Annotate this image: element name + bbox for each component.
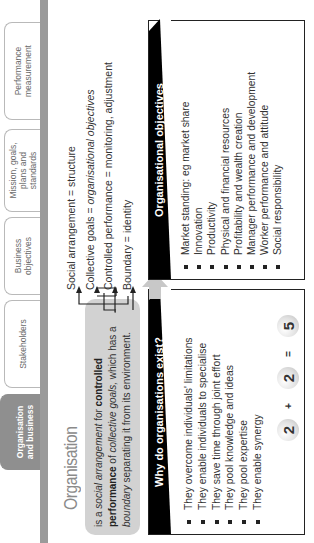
- statement-collective-goals: Collective goals = organisational object…: [81, 62, 100, 290]
- list-item: They enable synergy: [251, 337, 265, 524]
- tab-mission-goals[interactable]: Mission, goals, plans and standards: [4, 129, 40, 212]
- definition-text: collective goals,: [107, 382, 118, 453]
- list-item: Market standing: eg market share: [179, 72, 192, 269]
- diagram-canvas: Organisation and business Stakeholders B…: [0, 0, 314, 543]
- tab-label: Performance measurement: [13, 40, 33, 102]
- synergy-ball-a: 2: [277, 419, 299, 441]
- objectives-list: Market standing: eg market share Innovat…: [179, 72, 285, 269]
- definition-statements: Social arrangement = structure Collectiv…: [62, 62, 136, 290]
- statement-structure: Social arrangement = structure: [62, 62, 81, 290]
- list-item: They save time through joint effort: [210, 337, 224, 524]
- tab-label: Business objectives: [13, 231, 33, 281]
- box-title: Why do organisations exist?: [153, 290, 165, 534]
- equals-sign: =: [283, 351, 294, 357]
- list-item: They pool knowledge and ideas: [223, 337, 237, 524]
- statement-text: Collective goals =: [84, 204, 96, 290]
- tab-label: Organisation and business: [15, 402, 35, 462]
- list-item: Profitability and wealth creation: [232, 72, 245, 269]
- definition-text: separating it from its environment.: [121, 332, 132, 485]
- list-item: Worker performance and attitude: [258, 72, 271, 269]
- list-item: They overcome individuals' limitations: [182, 337, 196, 524]
- list-item: Physical and financial resources: [219, 72, 232, 269]
- tab-label: Mission, goals, plans and standards: [8, 133, 38, 209]
- list-item: They pool expertise: [237, 337, 251, 524]
- tab-business-objectives[interactable]: Business objectives: [4, 217, 40, 295]
- list-item: They enable individuals to specialise: [196, 337, 210, 524]
- tab-label: Stakeholders: [18, 319, 28, 369]
- synergy-ball-result: 5: [277, 315, 299, 337]
- why-organisations-exist-box: Why do organisations exist? They overcom…: [148, 289, 305, 535]
- statement-controlled-performance: Controlled performance = monitoring, adj…: [99, 62, 118, 290]
- definition-text: for: [93, 406, 104, 423]
- tab-stakeholders[interactable]: Stakeholders: [4, 300, 40, 388]
- organisational-objectives-box: Organisational objectives Market standin…: [148, 20, 305, 280]
- list-item: Innovation: [192, 72, 205, 269]
- list-item: Social responsibility: [271, 72, 284, 269]
- synergy-ball-b: 2: [277, 367, 299, 389]
- definition-text: boundary: [121, 485, 132, 527]
- statement-boundary: Boundary = identity: [118, 62, 137, 290]
- plus-sign: +: [283, 403, 294, 409]
- definition-text: which has a: [107, 326, 118, 382]
- list-item: Productivity: [205, 72, 218, 269]
- definition-text: of: [107, 453, 118, 467]
- reasons-list: They overcome individuals' limitations T…: [182, 337, 265, 524]
- statement-text: organisational objectives: [84, 89, 96, 204]
- box-title: Organisational objectives: [153, 21, 165, 279]
- definition-text: is a: [93, 509, 104, 527]
- list-item: Manager performance and development: [245, 72, 258, 269]
- page-title: Organisation: [60, 427, 82, 510]
- tab-bar-divider: [40, 0, 48, 543]
- box-header: Why do organisations exist?: [149, 290, 171, 534]
- definition-box: is a social arrangement for controlled p…: [85, 299, 140, 535]
- box-header: Organisational objectives: [149, 21, 171, 279]
- definition-text: social arrangement: [93, 424, 104, 509]
- tab-performance-measurement[interactable]: Performance measurement: [4, 22, 40, 120]
